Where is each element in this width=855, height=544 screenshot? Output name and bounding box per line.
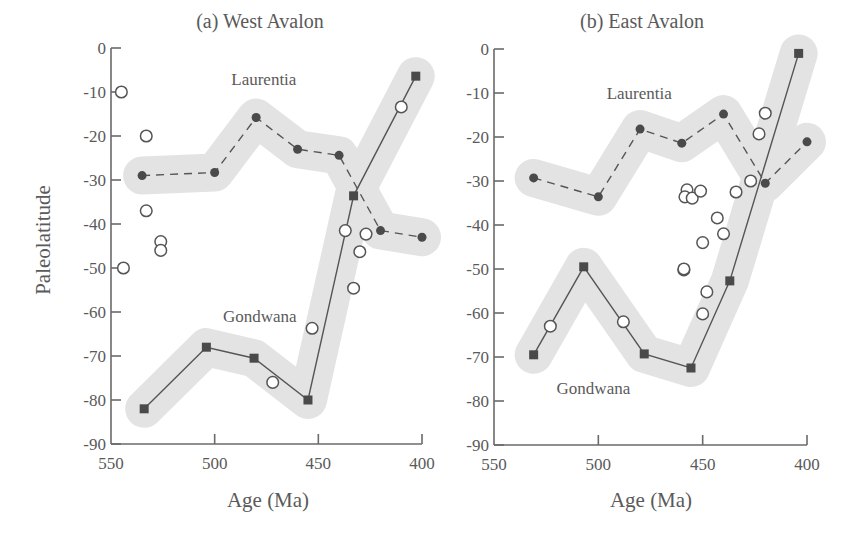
gondwana-pole-marker bbox=[640, 349, 649, 358]
gondwana-label: Gondwana bbox=[223, 307, 297, 326]
y-tick-label: -60 bbox=[466, 304, 489, 323]
confidence-bands bbox=[142, 76, 422, 409]
y-tick-label: -20 bbox=[466, 128, 489, 147]
avalon-observation-marker bbox=[267, 377, 279, 389]
avalon-observation-marker bbox=[354, 246, 366, 258]
laurentia-pole-marker bbox=[636, 125, 645, 134]
gondwana-pole-marker bbox=[686, 364, 695, 373]
avalon-observation-marker bbox=[395, 101, 407, 113]
gondwana-pole-marker bbox=[202, 343, 211, 352]
avalon-observation-marker bbox=[155, 245, 167, 257]
avalon-observation-marker bbox=[339, 225, 351, 237]
y-tick-label: -30 bbox=[83, 171, 106, 190]
laurentia-pole-marker bbox=[529, 173, 538, 182]
x-tick-label: 500 bbox=[202, 454, 228, 473]
laurentia-pole-marker bbox=[335, 151, 344, 160]
chart-canvas: Paleolatitude 0-10-20-30-40-50-60-70-80-… bbox=[0, 0, 855, 544]
y-tick-label: -20 bbox=[83, 127, 106, 146]
x-tick-label: 450 bbox=[306, 454, 332, 473]
panel-title: (a) West Avalon bbox=[196, 10, 324, 33]
avalon-observation-marker bbox=[759, 107, 771, 119]
avalon-observation-marker bbox=[116, 86, 128, 98]
panel-east-avalon: 0-10-20-30-40-50-60-70-80-90550500450400… bbox=[466, 10, 819, 512]
laurentia-pole-marker bbox=[138, 171, 147, 180]
laurentia-pole-marker bbox=[376, 226, 385, 235]
laurentia-pole-marker bbox=[761, 179, 770, 188]
x-tick-label: 450 bbox=[690, 455, 716, 474]
laurentia-label: Laurentia bbox=[231, 70, 297, 89]
x-axis-label: Age (Ma) bbox=[227, 488, 309, 512]
avalon-observation-marker bbox=[711, 212, 723, 224]
x-tick-label: 550 bbox=[98, 454, 124, 473]
y-axis-label: Paleolatitude bbox=[31, 185, 55, 295]
y-tick-label: -40 bbox=[466, 216, 489, 235]
y-tick-label: -10 bbox=[83, 83, 106, 102]
y-tick-label: -60 bbox=[83, 303, 106, 322]
y-tick-label: -80 bbox=[466, 392, 489, 411]
avalon-observation-marker bbox=[697, 308, 709, 320]
y-tick-label: -90 bbox=[466, 436, 489, 455]
avalon-observation-marker bbox=[701, 286, 713, 298]
y-tick-label: 0 bbox=[481, 40, 490, 59]
y-tick-label: -90 bbox=[83, 435, 106, 454]
y-tick-label: -50 bbox=[466, 260, 489, 279]
avalon-observation-marker bbox=[678, 263, 690, 275]
avalon-observation-marker bbox=[753, 128, 765, 140]
y-tick-label: -30 bbox=[466, 172, 489, 191]
avalon-observation-marker bbox=[697, 237, 709, 249]
gondwana-label: Gondwana bbox=[557, 379, 631, 398]
y-tick-label: -50 bbox=[83, 259, 106, 278]
avalon-observation-marker bbox=[545, 320, 557, 332]
gondwana-pole-marker bbox=[250, 354, 259, 363]
gondwana-pole-marker bbox=[303, 396, 312, 405]
paleolatitude-figure: Paleolatitude 0-10-20-30-40-50-60-70-80-… bbox=[0, 0, 855, 544]
gondwana-pole-marker bbox=[411, 72, 420, 81]
avalon-observation-marker bbox=[695, 185, 707, 197]
gondwana-pole-marker bbox=[349, 191, 358, 200]
y-tick-label: -10 bbox=[466, 84, 489, 103]
avalon-observation-marker bbox=[140, 130, 152, 142]
panel-title: (b) East Avalon bbox=[580, 10, 704, 33]
gondwana-pole-marker bbox=[579, 262, 588, 271]
y-tick-label: -70 bbox=[466, 348, 489, 367]
avalon-observation-marker bbox=[730, 186, 742, 198]
avalon-observation-marker bbox=[718, 228, 730, 240]
avalon-observation-marker bbox=[118, 262, 130, 274]
y-tick-label: -40 bbox=[83, 215, 106, 234]
gondwana-pole-marker bbox=[140, 404, 149, 413]
y-tick-label: -80 bbox=[83, 391, 106, 410]
panel-west-avalon: 0-10-20-30-40-50-60-70-80-90550500450400… bbox=[83, 10, 434, 512]
laurentia-pole-marker bbox=[210, 168, 219, 177]
x-tick-label: 400 bbox=[409, 454, 435, 473]
avalon-observation-marker bbox=[140, 205, 152, 217]
laurentia-pole-marker bbox=[252, 113, 261, 122]
x-axis-label: Age (Ma) bbox=[610, 488, 692, 512]
gondwana-pole-marker bbox=[529, 350, 538, 359]
laurentia-label: Laurentia bbox=[607, 84, 673, 103]
avalon-observation-marker bbox=[618, 316, 630, 328]
laurentia-pole-marker bbox=[677, 139, 686, 148]
x-tick-label: 550 bbox=[481, 455, 507, 474]
laurentia-pole-marker bbox=[803, 137, 812, 146]
avalon-observation-marker bbox=[306, 322, 318, 334]
x-tick-label: 500 bbox=[586, 455, 612, 474]
x-tick-label: 400 bbox=[794, 455, 820, 474]
laurentia-pole-marker bbox=[719, 110, 728, 119]
avalon-observation-marker bbox=[745, 175, 757, 187]
laurentia-pole-marker bbox=[418, 233, 427, 242]
avalon-observation-marker bbox=[348, 282, 360, 294]
laurentia-pole-marker bbox=[293, 145, 302, 154]
laurentia-pole-marker bbox=[594, 192, 603, 201]
avalon-observation-marker bbox=[360, 228, 372, 240]
gondwana-pole-marker bbox=[794, 49, 803, 58]
gondwana-pole-marker bbox=[725, 276, 734, 285]
y-tick-label: 0 bbox=[98, 39, 107, 58]
y-tick-label: -70 bbox=[83, 347, 106, 366]
